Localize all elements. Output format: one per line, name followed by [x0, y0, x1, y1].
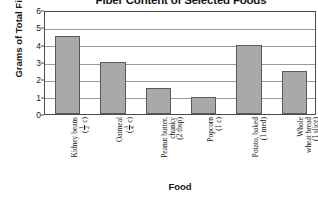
bar[interactable] — [146, 88, 171, 114]
plot-area — [44, 11, 316, 115]
bars-layer — [45, 12, 315, 114]
x-tick-label: Popcorn(1 c) — [207, 117, 221, 179]
bar[interactable] — [55, 36, 80, 114]
x-tick-label: Wholewheat bread(1 slice) — [297, 117, 311, 179]
chart-title: Fiber Content of Selected Foods — [44, 0, 318, 7]
x-tick-label: Potato, baked(1 med) — [252, 117, 266, 179]
bar[interactable] — [191, 97, 216, 114]
y-axis-ticks: 0123456 — [0, 11, 44, 115]
x-tick-label: Oatmeal(34 c) — [116, 117, 130, 179]
x-axis-tick-labels: Kidney beans(12 c)Oatmeal(34 c)Peanut bu… — [44, 117, 316, 179]
bar[interactable] — [282, 71, 307, 114]
bar[interactable] — [100, 62, 125, 114]
x-tick-label: Peanut butter,chunky(2 tbsp) — [161, 117, 175, 179]
x-tick-label: Kidney beans(12 c) — [71, 117, 85, 179]
bar[interactable] — [236, 45, 261, 114]
bar-chart-figure: Fiber Content of Selected Foods Grams of… — [0, 0, 318, 201]
x-axis-title: Food — [44, 181, 316, 192]
